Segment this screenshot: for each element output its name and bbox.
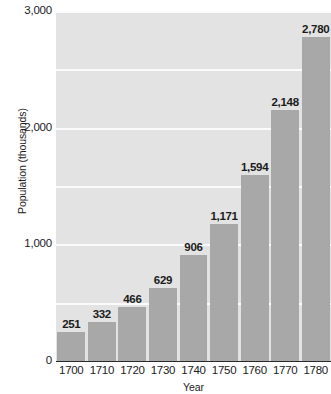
bar[interactable] bbox=[180, 255, 208, 361]
x-axis-tick-labels: 170017101720173017401750176017701780 bbox=[56, 364, 331, 380]
y-tick-label: 0 bbox=[6, 355, 52, 366]
x-tick-label: 1730 bbox=[146, 364, 181, 376]
bar-series: 2513324666299061,1711,5942,1482,780 bbox=[56, 11, 331, 361]
bar-value-label: 2,780 bbox=[293, 23, 331, 35]
plot-area: 2513324666299061,1711,5942,1482,780 bbox=[56, 11, 331, 361]
x-tick-label: 1760 bbox=[237, 364, 272, 376]
y-tick-label: 1,000 bbox=[6, 238, 52, 249]
bar[interactable] bbox=[57, 332, 85, 361]
y-tick-label: 3,000 bbox=[6, 5, 52, 16]
bar-group[interactable]: 2,780 bbox=[302, 11, 330, 361]
x-tick-label: 1710 bbox=[85, 364, 120, 376]
y-tick-label: 2,000 bbox=[6, 122, 52, 133]
x-tick-label: 1770 bbox=[268, 364, 303, 376]
bar[interactable] bbox=[271, 110, 299, 361]
bar-group[interactable]: 629 bbox=[149, 11, 177, 361]
x-tick-label: 1780 bbox=[298, 364, 331, 376]
y-axis-tick-labels: 01,0002,0003,000 bbox=[0, 0, 52, 394]
bar-group[interactable]: 332 bbox=[88, 11, 116, 361]
bar[interactable] bbox=[118, 307, 146, 361]
bar[interactable] bbox=[241, 175, 269, 361]
bar[interactable] bbox=[88, 322, 116, 361]
x-tick-label: 1720 bbox=[115, 364, 150, 376]
bar-group[interactable]: 466 bbox=[118, 11, 146, 361]
x-tick-label: 1700 bbox=[54, 364, 89, 376]
x-axis-title: Year bbox=[56, 381, 331, 393]
x-axis-line bbox=[56, 361, 331, 362]
bar-group[interactable]: 1,594 bbox=[241, 11, 269, 361]
bar-chart-figure: Population (thousands) 01,0002,0003,000 … bbox=[0, 0, 331, 394]
bar[interactable] bbox=[302, 37, 330, 361]
bar[interactable] bbox=[149, 288, 177, 361]
x-tick-label: 1750 bbox=[207, 364, 242, 376]
bar[interactable] bbox=[210, 224, 238, 361]
bar-group[interactable]: 906 bbox=[180, 11, 208, 361]
bar-group[interactable]: 1,171 bbox=[210, 11, 238, 361]
x-tick-label: 1740 bbox=[176, 364, 211, 376]
bar-group[interactable]: 2,148 bbox=[271, 11, 299, 361]
